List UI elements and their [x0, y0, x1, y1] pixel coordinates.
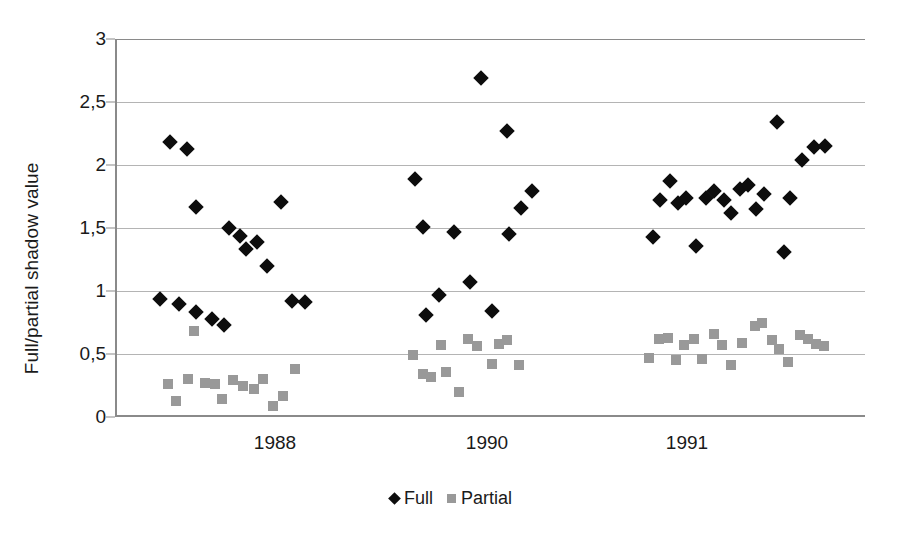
data-point-partial: [454, 387, 464, 397]
data-point-full: [171, 296, 187, 312]
y-tick-mark: [106, 165, 115, 166]
y-tick-mark: [106, 228, 115, 229]
x-axis-labels: 198819901991: [115, 432, 865, 460]
legend-label: Partial: [461, 489, 512, 507]
y-tick-mark: [106, 39, 115, 40]
gridline-y-3: [117, 39, 865, 40]
data-point-partial: [426, 372, 436, 382]
data-point-partial: [408, 350, 418, 360]
data-point-full: [499, 123, 515, 139]
data-point-partial: [258, 374, 268, 384]
gridline-y-2: [117, 165, 865, 166]
data-point-partial: [671, 355, 681, 365]
data-point-partial: [183, 374, 193, 384]
y-tick-label: 3: [46, 28, 106, 50]
y-tick-mark: [106, 102, 115, 103]
data-point-partial: [819, 341, 829, 351]
data-point-full: [817, 138, 833, 154]
data-point-partial: [689, 334, 699, 344]
y-tick-label: 0: [46, 406, 106, 428]
legend-entry-full[interactable]: Full: [390, 489, 433, 507]
data-point-partial: [472, 341, 482, 351]
data-point-partial: [783, 357, 793, 367]
data-point-full: [748, 201, 764, 217]
data-point-partial: [210, 379, 220, 389]
x-tick-label-1991: 1991: [666, 432, 708, 454]
data-point-partial: [228, 375, 238, 385]
x-tick-label-1988: 1988: [254, 432, 296, 454]
data-point-partial: [249, 384, 259, 394]
data-point-full: [462, 274, 478, 290]
data-point-full: [259, 258, 275, 274]
y-tick-label: 0,5: [46, 343, 106, 365]
data-point-partial: [502, 335, 512, 345]
data-point-full: [662, 174, 678, 190]
data-point-partial: [757, 318, 767, 328]
data-point-partial: [644, 353, 654, 363]
y-tick-label: 2,5: [46, 91, 106, 113]
data-point-full: [152, 291, 168, 307]
data-point-partial: [268, 401, 278, 411]
data-point-partial: [238, 381, 248, 391]
data-point-partial: [200, 378, 210, 388]
data-point-partial: [171, 396, 181, 406]
data-point-full: [446, 224, 462, 240]
data-point-full: [188, 199, 204, 215]
chart-legend: FullPartial: [0, 489, 902, 507]
data-point-full: [524, 184, 540, 200]
gridline-y-2.5: [117, 102, 865, 103]
data-point-partial: [663, 333, 673, 343]
data-point-full: [273, 194, 289, 210]
legend-label: Full: [404, 489, 433, 507]
data-point-full: [407, 171, 423, 187]
data-point-partial: [217, 394, 227, 404]
data-point-partial: [487, 359, 497, 369]
data-point-full: [756, 186, 772, 202]
data-point-full: [652, 192, 668, 208]
data-point-partial: [436, 340, 446, 350]
y-tick-mark: [106, 354, 115, 355]
data-point-full: [484, 303, 500, 319]
y-tick-mark: [106, 291, 115, 292]
legend-entry-partial[interactable]: Partial: [447, 489, 512, 507]
data-point-full: [418, 307, 434, 323]
y-tick-mark: [106, 417, 115, 418]
x-tick-label-1990: 1990: [466, 432, 508, 454]
y-tick-label: 1,5: [46, 217, 106, 239]
data-point-full: [431, 287, 447, 303]
data-point-partial: [514, 360, 524, 370]
data-point-partial: [726, 360, 736, 370]
data-point-partial: [709, 329, 719, 339]
data-point-full: [769, 114, 785, 130]
data-point-partial: [737, 338, 747, 348]
data-point-full: [162, 135, 178, 151]
data-point-partial: [774, 344, 784, 354]
data-point-full: [513, 200, 529, 216]
data-point-full: [415, 219, 431, 235]
data-point-full: [645, 229, 661, 245]
plot-area: [115, 39, 865, 417]
y-axis-ticks: 00,511,522,53: [30, 39, 106, 417]
data-point-full: [782, 190, 798, 206]
data-point-partial: [189, 326, 199, 336]
data-point-full: [723, 205, 739, 221]
gridline-y-0.5: [117, 354, 865, 355]
data-point-full: [776, 244, 792, 260]
diamond-marker-icon: [388, 492, 401, 505]
data-point-partial: [717, 340, 727, 350]
data-point-full: [297, 295, 313, 311]
gridline-y-1: [117, 291, 865, 292]
data-point-partial: [679, 340, 689, 350]
data-point-partial: [290, 364, 300, 374]
y-tick-label: 2: [46, 154, 106, 176]
y-tick-label: 1: [46, 280, 106, 302]
data-point-full: [179, 141, 195, 157]
square-marker-icon: [447, 494, 456, 503]
data-point-full: [473, 70, 489, 86]
data-point-full: [188, 305, 204, 321]
data-point-partial: [441, 367, 451, 377]
scatter-chart: Full/partial shadow value 00,511,522,53 …: [0, 0, 902, 537]
data-point-partial: [697, 354, 707, 364]
data-point-partial: [163, 379, 173, 389]
data-point-full: [688, 238, 704, 254]
